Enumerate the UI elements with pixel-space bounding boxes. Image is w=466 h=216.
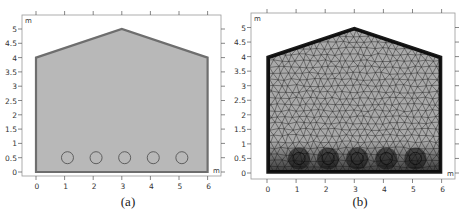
y-tick-label: 0 [241, 169, 246, 178]
caption-b: (b) [330, 194, 390, 210]
x-unit-label: m [447, 170, 454, 178]
y-unit-label: m [254, 15, 261, 23]
y-tick-label: 3.5 [5, 68, 17, 77]
x-tick-label: 5 [178, 182, 183, 191]
y-tick-label: 4.5 [5, 39, 17, 48]
y-tick-label: 4 [12, 54, 17, 63]
x-tick-label: 0 [35, 182, 40, 191]
x-tick-label: 5 [411, 185, 416, 192]
y-tick-label: 1.5 [234, 125, 246, 134]
y-tick-label: 1 [241, 140, 246, 149]
y-tick-label: 3 [12, 82, 17, 91]
x-tick-label: 1 [295, 185, 300, 192]
y-tick-label: 0.5 [234, 154, 246, 163]
x-tick-label: 1 [63, 182, 68, 191]
x-tick-label: 4 [149, 182, 154, 191]
y-tick-label: 5 [12, 25, 17, 34]
y-tick-label: 3 [241, 82, 246, 91]
pipe-refined-mesh [288, 147, 310, 169]
y-unit-label: m [25, 17, 32, 25]
y-tick-label: 4.5 [234, 38, 246, 47]
pipe-refined-mesh [317, 147, 339, 169]
x-tick-label: 4 [382, 185, 387, 192]
pipe-refined-mesh [404, 147, 426, 169]
x-tick-label: 3 [353, 185, 358, 192]
panel-b-mesh: 012345600.511.522.533.544.55mm [233, 0, 466, 192]
panel-a-geometry: 012345600.511.522.533.544.55mm [0, 0, 233, 192]
y-tick-label: 5 [241, 24, 246, 33]
caption-a: (a) [98, 194, 158, 210]
y-tick-label: 0.5 [5, 154, 17, 163]
mesh-plot: 012345600.511.522.533.544.55mm [233, 0, 466, 192]
y-tick-label: 3.5 [234, 67, 246, 76]
x-tick-label: 2 [92, 182, 97, 191]
pipe-refined-mesh [346, 147, 368, 169]
y-tick-label: 1 [12, 139, 17, 148]
pipe-refined-mesh [375, 147, 397, 169]
x-tick-label: 2 [324, 185, 329, 192]
x-tick-label: 0 [266, 185, 271, 192]
x-tick-label: 6 [206, 182, 211, 191]
y-tick-label: 2.5 [5, 97, 17, 106]
x-tick-label: 6 [440, 185, 445, 192]
y-tick-label: 0 [12, 168, 17, 177]
y-tick-label: 4 [241, 53, 246, 62]
domain-outline [36, 29, 208, 172]
y-tick-label: 1.5 [5, 125, 17, 134]
y-tick-label: 2.5 [234, 96, 246, 105]
y-tick-label: 2 [241, 111, 246, 120]
y-tick-label: 2 [12, 111, 17, 120]
x-tick-label: 3 [120, 182, 125, 191]
x-unit-label: m [213, 167, 220, 175]
geometry-plot: 012345600.511.522.533.544.55mm [0, 0, 233, 192]
